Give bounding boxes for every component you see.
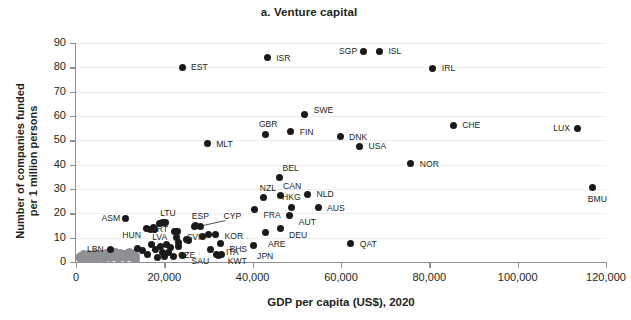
point-label-JPN: JPN <box>257 252 273 261</box>
gridline-y-80 <box>76 67 606 68</box>
x-tick-label-80000: 80,000 <box>394 271 464 283</box>
data-point-JPN <box>250 242 257 249</box>
point-label-EST: EST <box>191 63 208 72</box>
data-point-CHE <box>450 122 457 129</box>
x-tick-label-60000: 60,000 <box>306 271 376 283</box>
point-label-ARE: ARE <box>268 240 286 249</box>
x-tick-mark-60000 <box>341 262 342 268</box>
y-tick-mark-20 <box>70 213 76 214</box>
point-label-NLD: NLD <box>316 190 333 199</box>
point-label-SGP: SGP <box>339 47 357 56</box>
point-label-CAN: CAN <box>283 182 301 191</box>
point-label-DEU: DEU <box>289 231 307 240</box>
data-point <box>107 255 114 262</box>
point-label-KOR: KOR <box>225 232 244 241</box>
data-point-BMU <box>589 184 596 191</box>
x-tick-mark-100000 <box>518 262 519 268</box>
x-axis-title: GDP per capita (US$), 2020 <box>76 296 606 308</box>
point-label-AUT: AUT <box>299 218 316 227</box>
data-point-KWT <box>215 252 222 259</box>
data-point-QAT <box>347 240 354 247</box>
point-label-SVN: SVN <box>187 233 205 242</box>
y-axis-title: Number of companies funded per 1 million… <box>14 46 40 276</box>
y-tick-label-20: 20 <box>38 206 66 218</box>
gridline-y-30 <box>76 189 606 190</box>
point-label-ESP: ESP <box>192 212 209 221</box>
point-label-CHE: CHE <box>462 121 480 130</box>
point-label-ASM: ASM <box>101 214 120 223</box>
data-point <box>167 244 174 251</box>
y-tick-label-30: 30 <box>38 182 66 194</box>
y-tick-mark-80 <box>70 67 76 68</box>
data-point-KOR <box>212 231 219 238</box>
plot-area: ESTISRSGPISLIRLSWECHELUXFINGBRDNKMLTUSAN… <box>76 43 606 262</box>
y-tick-label-40: 40 <box>38 158 66 170</box>
point-label-CYP: CYP <box>224 212 242 221</box>
data-point-ARE <box>262 229 269 236</box>
data-point-FIN <box>287 128 294 135</box>
point-label-DNK: DNK <box>349 133 367 142</box>
x-tick-mark-0 <box>76 262 77 268</box>
y-tick-mark-50 <box>70 140 76 141</box>
data-point-ASM <box>122 215 129 222</box>
point-label-LTU: LTU <box>160 209 176 218</box>
data-point-ISL <box>376 48 383 55</box>
data-point-CYP <box>197 223 204 230</box>
point-label-NZL: NZL <box>260 184 276 193</box>
data-point-AUS <box>315 204 322 211</box>
x-tick-label-40000: 40,000 <box>218 271 288 283</box>
data-point-HKG <box>288 204 295 211</box>
data-point-BHS <box>217 240 224 247</box>
point-label-KWT: KWT <box>228 257 247 266</box>
data-point <box>122 255 129 262</box>
point-label-USA: USA <box>369 142 387 151</box>
data-point-NOR <box>407 160 414 167</box>
data-point <box>80 250 87 257</box>
data-point-DEU <box>277 225 284 232</box>
y-tick-label-70: 70 <box>38 85 66 97</box>
data-point-EST <box>179 64 186 71</box>
point-label-HUN: HUN <box>122 231 141 240</box>
data-point-LUX <box>574 125 581 132</box>
data-point-SGP <box>360 48 367 55</box>
point-label-GBR: GBR <box>259 120 278 129</box>
data-point-NLD <box>304 191 311 198</box>
data-point-CZE <box>175 243 182 250</box>
gridline-y-70 <box>76 92 606 93</box>
y-tick-mark-10 <box>70 238 76 239</box>
data-point <box>144 251 151 258</box>
data-point-HUN <box>143 225 150 232</box>
point-label-ISL: ISL <box>388 47 401 56</box>
point-label-BEL: BEL <box>283 164 299 173</box>
data-point-NZL <box>260 194 267 201</box>
y-tick-mark-60 <box>70 116 76 117</box>
chart-title: a. Venture capital <box>0 6 618 18</box>
data-point <box>130 253 137 260</box>
data-point-ISR <box>264 54 271 61</box>
x-tick-mark-20000 <box>164 262 165 268</box>
gridline-y-20 <box>76 213 606 214</box>
leader-line-CYP <box>203 220 225 226</box>
data-point-MLT <box>204 140 211 147</box>
point-label-LUX: LUX <box>553 124 570 133</box>
y-tick-label-0: 0 <box>38 255 66 267</box>
data-point-USA <box>356 143 363 150</box>
y-tick-label-80: 80 <box>38 60 66 72</box>
point-label-LBN: LBN <box>87 245 104 254</box>
gridline-y-50 <box>76 140 606 141</box>
gridline-y-90 <box>76 43 606 44</box>
x-tick-mark-80000 <box>429 262 430 268</box>
x-tick-label-20000: 20,000 <box>129 271 199 283</box>
data-point-IRL <box>429 65 436 72</box>
point-label-FRA: FRA <box>263 211 280 220</box>
y-tick-mark-70 <box>70 92 76 93</box>
y-tick-label-10: 10 <box>38 231 66 243</box>
y-tick-label-50: 50 <box>38 133 66 145</box>
gridline-y-40 <box>76 165 606 166</box>
y-tick-mark-90 <box>70 43 76 44</box>
data-point <box>115 256 122 263</box>
x-tick-mark-120000 <box>606 262 607 268</box>
y-tick-label-90: 90 <box>38 36 66 48</box>
point-label-MLT: MLT <box>216 140 233 149</box>
